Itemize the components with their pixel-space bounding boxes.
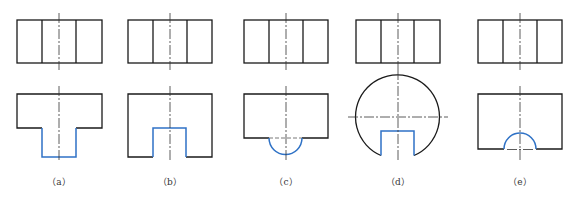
semicircle-protrusion (269, 138, 302, 155)
panel-e (478, 13, 562, 160)
caption-d: （d） (386, 175, 410, 188)
diagram-canvas (0, 0, 573, 204)
front-view-e (478, 13, 562, 70)
panel-c (244, 13, 328, 162)
top-view-c (244, 86, 328, 162)
rect-slot (153, 128, 186, 157)
front-view-d (356, 13, 440, 70)
caption-c: （c） (274, 175, 297, 188)
panel-a (17, 13, 102, 162)
top-view-d (348, 70, 448, 162)
top-view-e (478, 86, 562, 160)
caption-b: （b） (158, 175, 182, 188)
circle-slot (381, 131, 414, 156)
front-view-b (128, 13, 212, 70)
caption-e: （e） (508, 175, 531, 188)
circle-outline (356, 75, 440, 156)
panel-b (128, 13, 212, 162)
caption-a: （a） (47, 175, 70, 188)
top-view-a (17, 86, 102, 162)
front-view-c (244, 13, 328, 70)
front-view-a (17, 13, 102, 70)
panel-d (348, 13, 448, 162)
top-view-b (128, 86, 212, 162)
